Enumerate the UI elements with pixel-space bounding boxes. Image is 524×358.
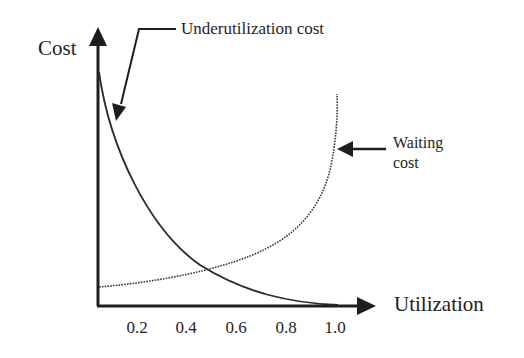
waiting-cost-label-line1: Waiting [393,133,443,153]
x-axis-arrowhead-icon [357,297,376,315]
x-tick-label: 0.2 [126,319,147,336]
y-axis-label: Cost [38,38,77,59]
underutilization-cost-curve [99,72,338,305]
underutilization-pointer-arrowhead-icon [112,103,126,121]
y-axis-arrowhead-icon [89,27,107,46]
x-axis-label: Utilization [394,294,484,315]
x-tick-label: 0.8 [275,319,296,336]
waiting-pointer-arrowhead-icon [337,141,353,157]
waiting-cost-curve [99,94,337,287]
underutilization-cost-label: Underutilization cost [181,20,324,37]
x-tick-label: 1.0 [324,319,345,336]
waiting-cost-label-line2: cost [393,153,443,173]
underutilization-pointer-line [121,29,176,104]
x-tick-label: 0.4 [175,319,196,336]
waiting-cost-label: Waiting cost [393,133,443,173]
x-tick-label: 0.6 [225,319,246,336]
